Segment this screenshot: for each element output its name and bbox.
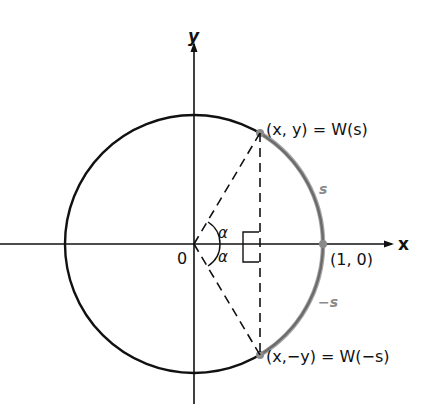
- arc-neg-s-highlight: [260, 244, 323, 355]
- arc-s-label: s: [319, 181, 327, 197]
- point-unit-label: (1, 0): [330, 250, 373, 269]
- arc-s-highlight: [260, 133, 323, 244]
- origin-label: 0: [177, 249, 187, 268]
- point-unit-dot: [319, 240, 327, 248]
- y-axis-label: y: [188, 26, 200, 46]
- x-axis-label: x: [398, 234, 409, 254]
- arc-neg-s-label: −s: [318, 294, 338, 310]
- right-angle-marker: [243, 232, 259, 262]
- point-lower-label: (x,−y) = W(−s): [266, 347, 390, 366]
- unit-circle-diagram: y x 0 α α (x, y) = W(s) (1, 0) (x,−y) = …: [0, 0, 429, 414]
- point-upper-label: (x, y) = W(s): [266, 120, 368, 139]
- angle-label-lower: α: [218, 248, 228, 266]
- angle-label-upper: α: [218, 224, 228, 242]
